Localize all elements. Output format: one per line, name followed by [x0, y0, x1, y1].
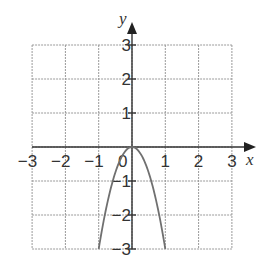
y-axis-label: y	[117, 9, 127, 28]
x-axis-label: x	[245, 150, 254, 169]
x-tick-label: 3	[227, 152, 236, 171]
x-tick-label: 1	[161, 152, 170, 171]
x-tick-label: −3	[18, 152, 37, 171]
graph: x y −3−2−1123321−1−2−3 0	[0, 0, 268, 272]
x-tick-label: −1	[84, 152, 103, 171]
x-tick-label: −2	[51, 152, 70, 171]
y-axis-arrow-icon	[127, 22, 137, 34]
x-tick-label: 2	[194, 152, 203, 171]
